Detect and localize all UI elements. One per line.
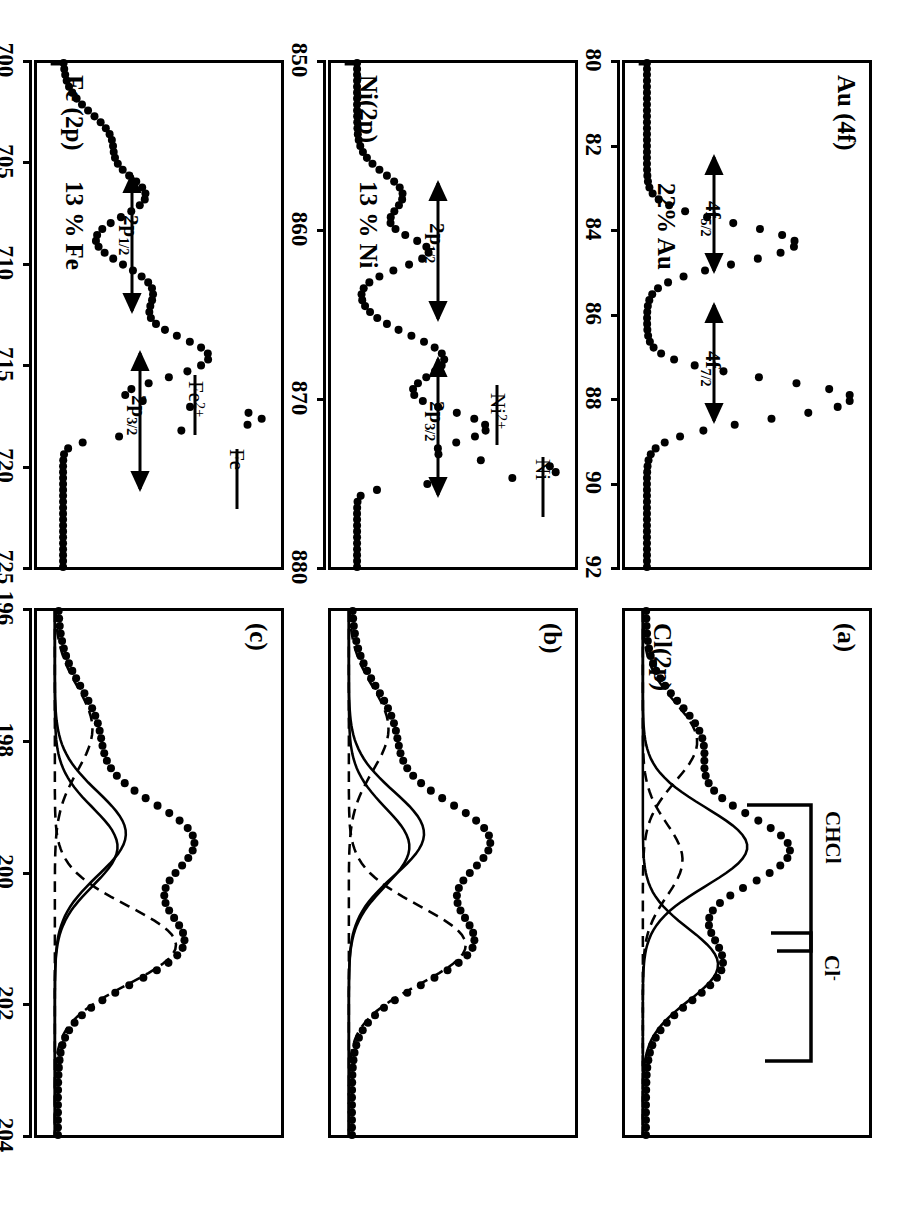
cl-a-bracket-clminus — [743, 929, 817, 1079]
axis-tick — [317, 229, 326, 232]
axis-tick-label: 202 — [0, 973, 18, 1033]
plot-area-cl-c — [37, 611, 281, 1135]
fe-leader-metal — [225, 429, 249, 511]
fe-arrow-2p12 — [119, 173, 145, 313]
axis-tick — [23, 263, 32, 266]
axis-tick — [23, 1135, 32, 1138]
axis-tick-label: 196 — [0, 578, 18, 638]
axis-tick — [23, 1003, 32, 1006]
fe-arrow-2p32 — [127, 351, 153, 491]
axis-tick-label: 850 — [286, 30, 312, 90]
axis-tick-label: 80 — [580, 30, 606, 90]
axis-tick-label: 90 — [580, 453, 606, 513]
axis-ni: 850860870880 — [286, 60, 326, 570]
ni-panel-title: Ni(2p) — [356, 75, 381, 143]
plot-area-cl-b — [331, 611, 575, 1135]
axis-tick-label: 710 — [0, 233, 18, 293]
cl-c-spectrum-svg — [37, 611, 281, 1135]
axis-tick-label: 860 — [286, 199, 312, 259]
axis-tick-label: 705 — [0, 131, 18, 191]
fe-leader-ion — [185, 353, 209, 439]
axis-tick-label: 204 — [0, 1105, 18, 1165]
panel-ni-2p: Ni(2p) 13 % Ni Ni Ni2+ 2p3/2 2p1/2 — [328, 60, 578, 570]
axis-tick — [23, 364, 32, 367]
ni-percent-label: 13 % Ni — [356, 181, 381, 269]
au-arrow-4f52 — [701, 155, 727, 273]
axis-tick — [611, 398, 620, 401]
axis-tick — [611, 60, 620, 63]
cl-c-panel-id: (c) — [246, 623, 271, 651]
axis-tick-label: 200 — [0, 842, 18, 902]
axis-tick-label: 82 — [580, 115, 606, 175]
cl-b-panel-id: (b) — [540, 623, 565, 654]
ni-arrow-2p12 — [425, 181, 451, 321]
axis-tick-label: 84 — [580, 199, 606, 259]
panel-cl-2p-c: (c) — [34, 608, 284, 1138]
axis-tick — [23, 161, 32, 164]
axis-tick — [23, 60, 32, 63]
panel-au-4f: Au (4f) 22% Au 4f7/2 4f5/2 — [622, 60, 872, 570]
axis-cl: 196198200202204 — [0, 608, 32, 1138]
cl-a-ann-clminus: Cl- — [821, 955, 843, 981]
axis-tick-label: 700 — [0, 30, 18, 90]
axis-tick — [23, 740, 32, 743]
axis-tick — [317, 60, 326, 63]
fe-percent-label: 13 % Fe — [62, 181, 87, 270]
axis-tick-label: 720 — [0, 436, 18, 496]
axis-tick-label: 880 — [286, 537, 312, 597]
axis-tick-label: 715 — [0, 334, 18, 394]
ni-leader-metal — [531, 439, 555, 519]
au-percent-label: 22% Au — [654, 183, 679, 270]
panel-cl-2p-a: Cl(2p) (a) CHCl Cl- — [622, 608, 872, 1138]
axis-tick — [23, 466, 32, 469]
axis-au: 80828486889092 — [580, 60, 620, 570]
axis-tick — [317, 567, 326, 570]
cl-a-ann-chcl: CHCl — [822, 811, 843, 864]
axis-tick — [23, 872, 32, 875]
figure-rotation-stage: Au (4f) 22% Au 4f7/2 4f5/2 — [0, 0, 908, 1224]
ni-arrow-2p32 — [425, 357, 451, 497]
axis-tick-label: 86 — [580, 284, 606, 344]
axis-tick — [23, 567, 32, 570]
axis-tick — [611, 314, 620, 317]
au-arrow-4f72 — [701, 303, 727, 423]
xps-figure: Au (4f) 22% Au 4f7/2 4f5/2 — [0, 0, 908, 1224]
axis-tick-label: 198 — [0, 710, 18, 770]
au-panel-title: Au (4f) — [834, 75, 859, 151]
fe-panel-title: Fe (2p) — [62, 75, 87, 151]
axis-fe: 700705710715720725 — [0, 60, 32, 570]
axis-tick — [611, 567, 620, 570]
cl-a-panel-id: (a) — [834, 623, 859, 652]
axis-baseline — [29, 60, 32, 570]
axis-tick-label: 88 — [580, 368, 606, 428]
axis-tick-label: 870 — [286, 368, 312, 428]
axis-baseline — [323, 60, 326, 570]
panel-fe-2p: Fe (2p) 13 % Fe Fe Fe2+ 2p3/2 2p1/2 — [34, 60, 284, 570]
axis-tick — [611, 145, 620, 148]
panel-cl-2p-b: (b) — [328, 608, 578, 1138]
ni-leader-ion — [487, 363, 511, 449]
axis-tick — [317, 398, 326, 401]
axis-tick — [611, 483, 620, 486]
axis-tick — [23, 608, 32, 611]
axis-tick — [611, 229, 620, 232]
cl-panel-title: Cl(2p) — [650, 623, 675, 691]
axis-tick-label: 92 — [580, 537, 606, 597]
cl-b-spectrum-svg — [331, 611, 575, 1135]
